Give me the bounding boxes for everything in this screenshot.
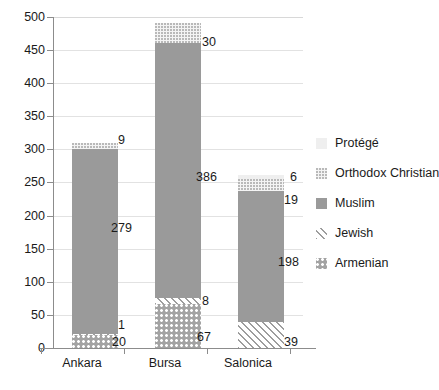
legend-item-orthodox-christian[interactable]: Orthodox Christian [316,158,436,188]
value-label-ankara-armenian: 20 [112,336,126,349]
x-axis-line [40,348,316,349]
value-label-ankara-muslim: 279 [111,222,132,235]
legend-label-orthodox-christian: Orthodox Christian [335,167,439,180]
y-axis-label-50: 50 [1,309,45,322]
bar-ankara[interactable] [72,143,118,348]
bar-segment-salonica-jewish [238,322,284,348]
bar-segment-bursa-muslim [155,43,201,299]
value-label-salonica-muslim: 198 [278,256,299,269]
y-axis-label-300: 300 [1,143,45,156]
bar-segment-salonica-orthodox-christian [238,179,284,192]
bar-segment-salonica-protege [238,175,284,179]
y-axis-label-100: 100 [1,276,45,289]
value-label-salonica-orthodox-christian: 19 [284,194,298,207]
value-label-bursa-jewish: 8 [202,295,209,308]
bar-bursa[interactable] [155,23,201,348]
value-label-salonica-jewish: 39 [284,336,298,349]
bar-segment-ankara-orthodox-christian [72,143,118,149]
value-label-ankara-orthodox-christian: 9 [118,134,125,147]
bar-segment-bursa-orthodox-christian [155,23,201,43]
value-label-bursa-orthodox-christian: 30 [202,36,216,49]
legend-swatch-orthodox-christian-icon [316,168,327,179]
stacked-bar-chart: 500 450 400 350 300 250 200 150 100 50 0 [0,0,439,390]
value-label-bursa-muslim: 386 [196,171,217,184]
y-axis-label-250: 250 [1,176,45,189]
legend-item-jewish[interactable]: Jewish [316,218,436,248]
y-axis-label-350: 350 [1,110,45,123]
y-axis-label-200: 200 [1,210,45,223]
bar-segment-bursa-jewish [155,298,201,303]
value-label-salonica-protege: 6 [290,171,297,184]
legend-item-muslim[interactable]: Muslim [316,188,436,218]
value-label-ankara-jewish: 1 [118,319,125,332]
y-axis-label-400: 400 [1,77,45,90]
legend-label-jewish: Jewish [335,227,373,240]
chart-legend: Protégé Orthodox Christian Muslim Jewish… [316,128,436,278]
bar-segment-ankara-muslim [72,149,118,334]
legend-swatch-jewish-icon [316,228,327,239]
x-axis-label-salonica: Salonica [193,357,303,370]
value-label-bursa-armenian: 67 [197,331,211,344]
legend-swatch-armenian-icon [316,258,327,269]
y-axis-label-450: 450 [1,44,45,57]
legend-label-muslim: Muslim [335,197,375,210]
legend-item-protege[interactable]: Protégé [316,128,436,158]
y-axis-label-0: 0 [1,342,45,355]
legend-label-protege: Protégé [335,137,379,150]
bar-segment-bursa-armenian [155,304,201,348]
legend-label-armenian: Armenian [335,257,389,270]
legend-item-armenian[interactable]: Armenian [316,248,436,278]
y-axis-label-150: 150 [1,243,45,256]
legend-swatch-muslim-icon [316,198,327,209]
legend-swatch-protege-icon [316,138,327,149]
plot-area [54,17,303,348]
y-axis-label-500: 500 [1,11,45,24]
